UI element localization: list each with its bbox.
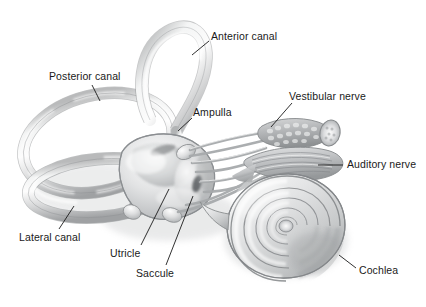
label-posterior-canal: Posterior canal	[49, 71, 121, 82]
label-cochlea: Cochlea	[359, 265, 398, 276]
vestibular-nerve-structure	[258, 118, 343, 148]
label-saccule: Saccule	[136, 268, 174, 279]
label-auditory-nerve: Auditory nerve	[347, 159, 416, 170]
label-utricle: Utricle	[110, 248, 140, 259]
label-vestibular-nerve: Vestibular nerve	[289, 91, 366, 102]
label-ampulla: Ampulla	[193, 107, 232, 118]
label-lateral-canal: Lateral canal	[19, 232, 80, 243]
figure-inner-ear-anatomy: Anterior canalPosterior canalAmpullaVest…	[0, 0, 426, 307]
cochlea-structure	[200, 168, 350, 284]
anatomy-illustration	[0, 0, 426, 307]
cochlea-apex	[279, 220, 293, 232]
leader-line-cochlea	[339, 255, 356, 268]
label-anterior-canal: Anterior canal	[211, 31, 277, 42]
